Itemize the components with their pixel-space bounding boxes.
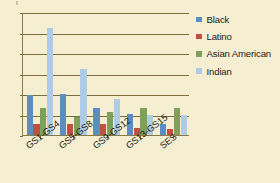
legend-swatch-icon	[196, 51, 202, 57]
legend-label: Indian	[207, 66, 232, 77]
y-tick-mark	[20, 75, 24, 76]
legend-item[interactable]: Indian	[196, 66, 271, 77]
chart-legend: BlackLatinoAsian AmericanIndian	[196, 14, 271, 77]
legend-label: Black	[207, 14, 230, 25]
y-tick-mark	[20, 95, 24, 96]
legend-swatch-icon	[196, 68, 202, 74]
legend-item[interactable]: Latino	[196, 31, 271, 42]
y-tick-mark	[20, 13, 24, 14]
bar-group	[127, 13, 154, 135]
legend-swatch-icon	[196, 17, 202, 23]
legend-label: Latino	[207, 31, 232, 42]
legend-swatch-icon	[196, 34, 202, 40]
y-tick-mark	[20, 136, 24, 137]
bar	[27, 95, 33, 135]
bar	[181, 115, 187, 136]
bar	[93, 108, 99, 135]
bar-group	[27, 13, 54, 135]
y-tick-mark	[20, 116, 24, 117]
bar-chart: 0123456 GS1-GS4GS5-GS8GS9-GS12GS13-GS15S…	[0, 0, 280, 183]
y-tick-mark	[20, 34, 24, 35]
legend-item[interactable]: Black	[196, 14, 271, 25]
legend-item[interactable]: Asian American	[196, 48, 271, 59]
legend-label: Asian American	[207, 48, 272, 59]
bar	[47, 28, 53, 135]
page-speck	[16, 1, 18, 5]
bar	[174, 108, 180, 135]
bar	[60, 94, 66, 135]
bar-group	[93, 13, 120, 135]
y-tick-mark	[20, 54, 24, 55]
bar-group	[60, 13, 87, 135]
